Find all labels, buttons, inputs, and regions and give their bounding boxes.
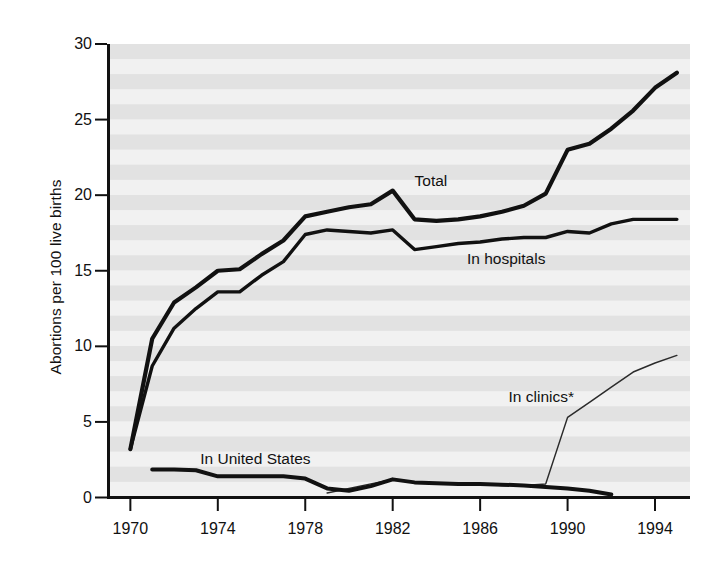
- series-label: In clinics*: [509, 388, 574, 406]
- background-bands: [109, 44, 691, 498]
- x-axis-ticks: [130, 499, 655, 511]
- x-tick-label: 1970: [113, 520, 149, 538]
- y-axis-ticks: [95, 44, 107, 498]
- chart-figure: Abortions per 100 live births 0510152025…: [0, 0, 714, 576]
- plot-area: [0, 0, 714, 576]
- x-axis-tick-labels: 1970197419781982198619901994: [0, 520, 714, 546]
- series-label: In hospitals: [467, 250, 545, 268]
- x-tick-label: 1994: [637, 520, 673, 538]
- x-tick-label: 1986: [462, 520, 498, 538]
- x-tick-label: 1974: [200, 520, 236, 538]
- series-label: In United States: [200, 450, 310, 468]
- series-label: Total: [415, 172, 448, 190]
- x-tick-label: 1978: [287, 520, 323, 538]
- x-tick-label: 1990: [550, 520, 586, 538]
- x-tick-label: 1982: [375, 520, 411, 538]
